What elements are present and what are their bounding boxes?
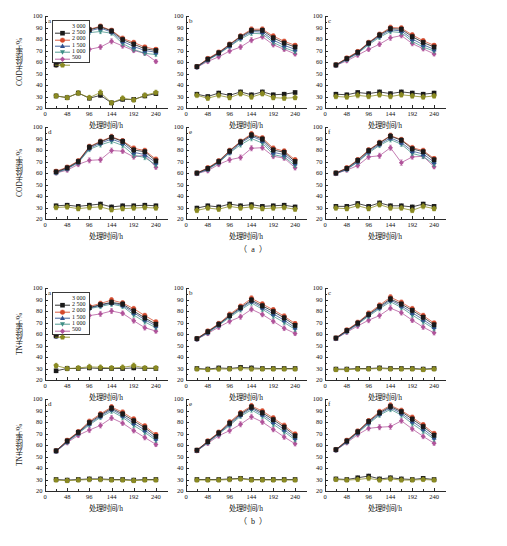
panel-b: 203040506070809010004896144192240b bbox=[186, 16, 306, 108]
panel-f: 203040506070809010004896144192240f bbox=[325, 127, 445, 219]
y-tick-label: 90 bbox=[316, 135, 323, 142]
plot-series-layer bbox=[325, 399, 445, 491]
legend-symbol-5 bbox=[55, 334, 70, 340]
y-tick-label: 70 bbox=[36, 158, 43, 165]
y-tick-label: 100 bbox=[313, 124, 323, 131]
x-tick-label: 192 bbox=[407, 383, 417, 390]
y-tick-label: 80 bbox=[316, 419, 323, 426]
x-tick-label: 240 bbox=[151, 111, 161, 118]
y-tick-label: 60 bbox=[177, 170, 184, 177]
y-tick-label: 60 bbox=[316, 442, 323, 449]
x-tick-label: 96 bbox=[226, 494, 233, 501]
panel-label-d: d bbox=[48, 128, 52, 136]
panel-c: 203040506070809010004896144192240c bbox=[325, 288, 445, 380]
y-tick-label: 80 bbox=[177, 147, 184, 154]
y-tick-label: 80 bbox=[316, 308, 323, 315]
x-tick-label: 192 bbox=[268, 111, 278, 118]
x-tick-label: 96 bbox=[86, 111, 93, 118]
x-tick-label: 0 bbox=[184, 111, 187, 118]
y-tick-label: 100 bbox=[33, 124, 43, 131]
y-tick-label: 70 bbox=[316, 47, 323, 54]
x-tick-label: 192 bbox=[407, 494, 417, 501]
x-tick-label: 240 bbox=[429, 494, 439, 501]
panel-label-d: d bbox=[48, 400, 52, 408]
x-tick-label: 192 bbox=[129, 222, 139, 229]
panel-e: 203040506070809010004896144192240e bbox=[186, 127, 306, 219]
y-tick-label: 50 bbox=[316, 453, 323, 460]
y-tick-label: 40 bbox=[36, 465, 43, 472]
x-tick-label: 48 bbox=[64, 222, 71, 229]
y-tick-label: 30 bbox=[177, 365, 184, 372]
x-tick-label: 48 bbox=[205, 383, 212, 390]
y-tick-label: 90 bbox=[316, 24, 323, 31]
y-tick-label: 70 bbox=[177, 430, 184, 437]
x-tick-label: 144 bbox=[247, 383, 257, 390]
y-tick-label: 100 bbox=[313, 285, 323, 292]
y-tick-label: 20 bbox=[177, 216, 184, 223]
x-tick-label: 192 bbox=[407, 111, 417, 118]
x-tick-label: 96 bbox=[86, 222, 93, 229]
y-tick-label: 30 bbox=[36, 365, 43, 372]
x-tick-label: 240 bbox=[290, 494, 300, 501]
panel-label-e: e bbox=[189, 400, 192, 408]
y-tick-label: 90 bbox=[36, 407, 43, 414]
y-tick-label: 50 bbox=[36, 181, 43, 188]
y-tick-label: 60 bbox=[177, 331, 184, 338]
x-tick-label: 48 bbox=[344, 494, 351, 501]
x-tick-label: 48 bbox=[205, 222, 212, 229]
y-tick-label: 30 bbox=[36, 93, 43, 100]
panel-label-e: e bbox=[189, 128, 192, 136]
x-tick-label: 96 bbox=[365, 494, 372, 501]
y-tick-label: 30 bbox=[177, 204, 184, 211]
y-tick-label: 70 bbox=[316, 158, 323, 165]
panel-label-a: a bbox=[48, 289, 51, 297]
y-tick-label: 70 bbox=[36, 430, 43, 437]
plot-series-layer bbox=[186, 399, 306, 491]
x-axis-title: 处理时间/h bbox=[45, 230, 167, 241]
x-axis-title: 处理时间/h bbox=[45, 502, 167, 513]
y-tick-label: 40 bbox=[177, 193, 184, 200]
x-tick-label: 0 bbox=[43, 383, 46, 390]
legend-row[interactable]: 500 bbox=[55, 54, 86, 60]
x-tick-label: 0 bbox=[323, 222, 326, 229]
x-tick-label: 96 bbox=[365, 383, 372, 390]
y-tick-label: 90 bbox=[177, 407, 184, 414]
x-tick-label: 144 bbox=[107, 111, 117, 118]
y-tick-label: 100 bbox=[313, 396, 323, 403]
y-tick-label: 40 bbox=[316, 82, 323, 89]
legend[interactable]: 3 000 2 500 2 000 1 500 bbox=[52, 20, 90, 63]
y-tick-label: 100 bbox=[33, 13, 43, 20]
x-tick-label: 48 bbox=[64, 111, 71, 118]
y-tick-label: 50 bbox=[316, 70, 323, 77]
x-tick-label: 192 bbox=[129, 111, 139, 118]
y-tick-label: 40 bbox=[36, 193, 43, 200]
y-tick-label: 100 bbox=[313, 13, 323, 20]
y-tick-label: 80 bbox=[177, 36, 184, 43]
x-tick-label: 96 bbox=[226, 222, 233, 229]
y-tick-label: 70 bbox=[177, 158, 184, 165]
y-tick-label: 80 bbox=[36, 147, 43, 154]
legend-row[interactable]: 500 bbox=[55, 326, 86, 332]
figure-root: 203040506070809010004896144192240a 3 000… bbox=[0, 0, 507, 546]
y-axis-title: TN去除率/% bbox=[14, 288, 25, 380]
panel-f: 203040506070809010004896144192240f bbox=[325, 399, 445, 491]
plot-series-layer bbox=[325, 127, 445, 219]
x-tick-label: 144 bbox=[386, 383, 396, 390]
x-tick-label: 240 bbox=[429, 111, 439, 118]
x-tick-label: 48 bbox=[344, 383, 351, 390]
y-tick-label: 20 bbox=[316, 377, 323, 384]
plot-series-layer bbox=[325, 288, 445, 380]
y-tick-label: 80 bbox=[36, 36, 43, 43]
x-tick-label: 240 bbox=[151, 222, 161, 229]
x-tick-label: 144 bbox=[386, 111, 396, 118]
x-tick-label: 0 bbox=[323, 111, 326, 118]
panel-label-c: c bbox=[328, 17, 331, 25]
legend[interactable]: 3 000 2 500 2 000 1 500 bbox=[52, 292, 90, 335]
x-tick-label: 240 bbox=[290, 222, 300, 229]
x-tick-label: 144 bbox=[386, 222, 396, 229]
subfigure-b: 203040506070809010004896144192240a 3 000… bbox=[0, 272, 507, 546]
plot-series-layer bbox=[45, 399, 167, 491]
y-tick-label: 90 bbox=[36, 24, 43, 31]
x-tick-label: 48 bbox=[205, 111, 212, 118]
y-tick-label: 40 bbox=[36, 354, 43, 361]
